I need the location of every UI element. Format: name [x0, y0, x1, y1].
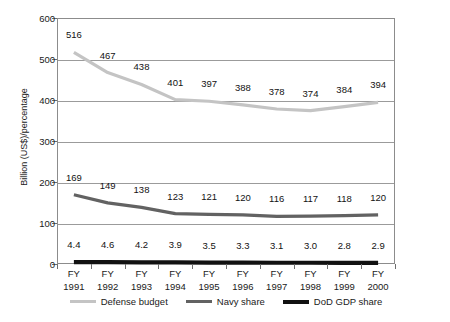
data-label: 516 — [66, 29, 82, 40]
legend-label: Defense budget — [101, 296, 168, 307]
data-label: 394 — [370, 79, 386, 90]
data-label: 3.5 — [202, 240, 215, 251]
data-label: 118 — [337, 193, 352, 204]
legend-swatch-icon — [186, 300, 212, 303]
data-label: 149 — [100, 180, 116, 191]
data-label: 378 — [269, 86, 285, 97]
legend-item-0[interactable]: Defense budget — [70, 296, 168, 307]
data-label: 138 — [134, 184, 150, 195]
x-axis-category-label: FY2000 — [352, 268, 404, 293]
data-label: 401 — [167, 77, 183, 88]
data-label: 2.9 — [371, 240, 384, 251]
data-label: 2.8 — [338, 240, 351, 251]
data-label: 4.2 — [135, 239, 148, 250]
data-label: 117 — [303, 193, 318, 204]
data-label: 3.1 — [270, 240, 283, 251]
chart-legend: Defense budgetNavy shareDoD GDP share — [57, 296, 395, 307]
data-label: 169 — [66, 172, 82, 183]
series-line-0 — [74, 52, 378, 110]
y-axis-tick-label: 300 — [11, 136, 55, 147]
data-label: 123 — [167, 191, 183, 202]
x-axis-category-prefix: FY — [352, 268, 404, 281]
legend-swatch-icon — [283, 300, 309, 304]
data-label: 374 — [303, 88, 319, 99]
y-axis-tick-label: 600 — [11, 13, 55, 24]
legend-item-2[interactable]: DoD GDP share — [283, 296, 382, 307]
data-label: 116 — [269, 193, 284, 204]
legend-item-1[interactable]: Navy share — [186, 296, 265, 307]
data-label: 467 — [100, 50, 116, 61]
legend-swatch-icon — [70, 300, 96, 303]
legend-label: Navy share — [217, 296, 265, 307]
data-label: 384 — [336, 84, 352, 95]
y-axis-tick-label: 500 — [11, 54, 55, 65]
data-label: 388 — [235, 82, 251, 93]
data-label: 438 — [134, 61, 150, 72]
series-line-2 — [74, 262, 378, 263]
data-label: 4.4 — [67, 239, 80, 250]
data-label: 120 — [370, 192, 386, 203]
data-label: 3.9 — [169, 239, 182, 250]
x-axis-category-year: 2000 — [352, 281, 404, 294]
legend-label: DoD GDP share — [314, 296, 382, 307]
data-label: 3.0 — [304, 240, 317, 251]
data-label: 4.6 — [101, 239, 114, 250]
data-label: 397 — [201, 78, 217, 89]
y-axis-tick-label: 400 — [11, 95, 55, 106]
series-line-1 — [74, 195, 378, 217]
y-axis-tick-label: 200 — [11, 177, 55, 188]
defense-budget-line-chart: Billion (US$)/percentage 010020030040050… — [0, 0, 450, 322]
data-label: 3.3 — [236, 240, 249, 251]
y-axis-tick-label: 100 — [11, 218, 55, 229]
data-label: 121 — [201, 191, 217, 202]
data-label: 120 — [235, 192, 251, 203]
